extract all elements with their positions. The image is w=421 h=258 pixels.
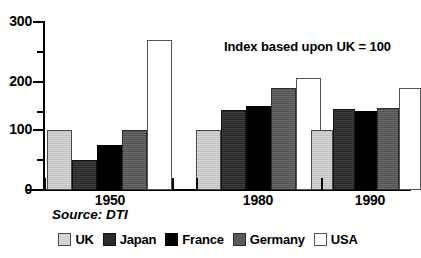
legend-swatch-germany-icon: [233, 233, 246, 246]
y-tick-200: [33, 81, 45, 83]
bar-1980-germany: [271, 88, 296, 190]
legend-swatch-france-icon: [165, 233, 178, 246]
legend-item-uk: UK: [58, 232, 93, 247]
bar-1990-france: [355, 111, 377, 190]
bar-1980-uk: [196, 130, 221, 190]
legend-label-germany: Germany: [250, 232, 305, 247]
x-axis-label-1990: 1990: [340, 192, 400, 208]
source-note: Source: DTI: [52, 207, 128, 222]
x-group-separator: [172, 178, 174, 190]
x-group-separator: [44, 178, 46, 190]
x-group-separator: [321, 178, 323, 190]
y-tick-100: [33, 129, 45, 131]
bar-1980-france: [246, 106, 271, 190]
y-axis-line: [43, 22, 45, 191]
legend-label-france: France: [182, 232, 223, 247]
x-axis-label-1980: 1980: [228, 192, 288, 208]
bar-1950-france: [97, 145, 122, 190]
bar-1990-usa: [399, 88, 421, 190]
bar-1950-uk: [47, 130, 72, 190]
y-axis-label-100: 100: [0, 122, 32, 136]
legend-item-japan: Japan: [103, 232, 157, 247]
bar-1990-germany: [377, 108, 399, 190]
y-tick-300: [33, 21, 45, 23]
legend-item-france: France: [165, 232, 223, 247]
x-axis-label-1950: 1950: [80, 192, 140, 208]
y-axis-label-300: 300: [0, 14, 32, 28]
chart-legend: UK Japan France Germany USA: [0, 232, 416, 247]
legend-label-uk: UK: [75, 232, 93, 247]
x-group-separator: [196, 178, 198, 190]
y-tick-250: [37, 51, 45, 53]
legend-swatch-usa-icon: [314, 233, 327, 246]
legend-label-usa: USA: [331, 232, 358, 247]
legend-item-usa: USA: [314, 232, 358, 247]
legend-label-japan: Japan: [120, 232, 157, 247]
bar-1990-japan: [333, 109, 355, 190]
y-tick-150: [37, 111, 45, 113]
legend-swatch-japan-icon: [103, 233, 116, 246]
bar-1950-usa: [147, 40, 172, 190]
bar-1950-germany: [122, 130, 147, 190]
bar-1980-japan: [221, 110, 246, 190]
y-tick-50: [37, 159, 45, 161]
chart-annotation: Index based upon UK = 100: [224, 39, 391, 54]
legend-item-germany: Germany: [233, 232, 305, 247]
y-axis-label-200: 200: [0, 74, 32, 88]
legend-swatch-uk-icon: [58, 233, 71, 246]
bar-1950-japan: [72, 160, 97, 190]
